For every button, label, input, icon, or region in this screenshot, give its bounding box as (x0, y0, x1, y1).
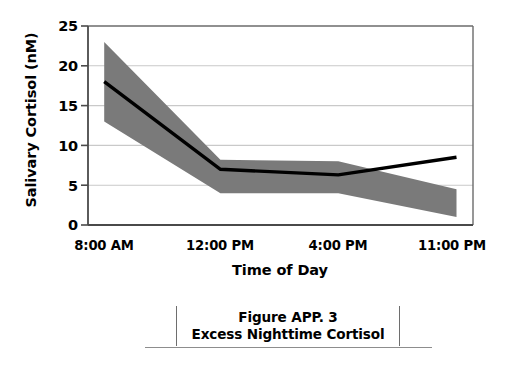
y-axis-ticks (81, 26, 88, 225)
caption-frame: Figure APP. 3 Excess Nighttime Cortisol (176, 306, 400, 346)
chart-block: Salivary Cortisol (nM) Time of Day 25 20… (0, 0, 529, 290)
figure-caption-block: Figure APP. 3 Excess Nighttime Cortisol (0, 292, 529, 373)
chart-plot-area (0, 0, 529, 290)
figure-root: Salivary Cortisol (nM) Time of Day 25 20… (0, 0, 529, 373)
caption-title: Figure APP. 3 (238, 309, 337, 326)
caption-subtitle: Excess Nighttime Cortisol (192, 326, 385, 343)
caption-divider-rule (145, 347, 432, 348)
